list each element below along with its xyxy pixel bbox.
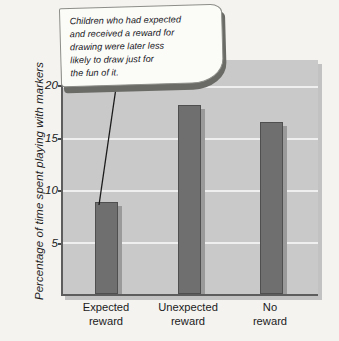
callout-line-3: drawing were later less — [70, 41, 164, 53]
y-tick-label-10: 10 — [36, 184, 58, 196]
x-label-unexpected-reward-line1: Unexpected — [158, 301, 218, 313]
y-axis-ticks: 20 15 10 5 — [36, 60, 58, 300]
x-label-expected-reward-line1: Expected — [83, 301, 130, 313]
bar-unexpected-reward — [178, 105, 201, 294]
x-label-expected-reward-line2: reward — [61, 314, 151, 328]
bar-no-reward — [260, 122, 283, 294]
x-label-no-reward-line1: No — [263, 301, 277, 313]
y-tick-label-20: 20 — [36, 79, 58, 91]
x-label-no-reward: No reward — [225, 300, 315, 329]
x-label-no-reward-line2: reward — [225, 314, 315, 328]
y-tick-label-5: 5 — [36, 237, 58, 249]
x-label-expected-reward: Expected reward — [61, 300, 151, 329]
callout-box: Children who had expected and received a… — [59, 4, 224, 88]
bar-chart-figure: Percentage of time spent playing with ma… — [0, 0, 339, 341]
callout-line-5: the fun of it. — [70, 68, 118, 79]
x-axis-labels: Expected reward Unexpected reward No rew… — [61, 300, 319, 341]
callout-line-1: Children who had expected — [69, 14, 181, 26]
plot-area — [61, 60, 318, 296]
x-label-unexpected-reward: Unexpected reward — [143, 300, 233, 329]
callout-text: Children who had expected and received a… — [69, 13, 216, 81]
callout-line-2: and received a reward for — [70, 28, 175, 40]
bar-expected-reward — [95, 202, 118, 294]
callout-line-4: likely to draw just for — [70, 54, 154, 65]
y-tick-label-15: 15 — [36, 132, 58, 144]
x-label-unexpected-reward-line2: reward — [143, 314, 233, 328]
annotation-callout: Children who had expected and received a… — [60, 6, 226, 92]
